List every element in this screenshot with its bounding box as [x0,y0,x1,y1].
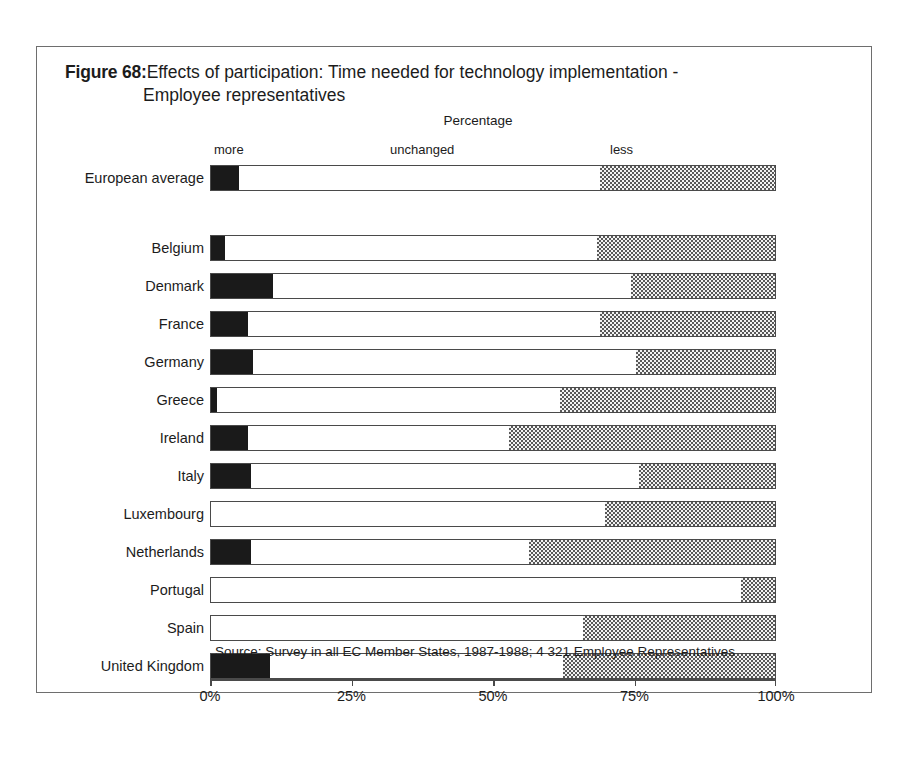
bar-segment-less [529,540,775,564]
bar-track [210,615,776,641]
bar-segment-less [583,616,775,640]
bar-segment-more [211,540,251,564]
bar-row-label: Ireland [160,425,204,451]
bar-track [210,577,776,603]
bar-segment-more [211,274,273,298]
bar-track [210,235,776,261]
bar-row: Luxembourg [210,501,776,527]
bar-row-label: European average [85,165,204,191]
x-axis-tick [352,679,354,686]
bar-segment-less [605,502,775,526]
x-axis-tick [635,679,637,686]
bar-row: Portugal [210,577,776,603]
bar-segment-unchanged [211,578,743,602]
x-axis-tick [493,679,495,686]
bar-segment-unchanged [211,502,607,526]
bar-row-label: Portugal [150,577,204,603]
bar-segment-unchanged [251,540,531,564]
bar-track [210,311,776,337]
bar-track [210,463,776,489]
bar-row: Netherlands [210,539,776,565]
x-axis-tick-label: 50% [478,688,507,704]
figure-label: Figure 68: [65,62,147,82]
bar-segment-less [600,312,775,336]
bar-row: Greece [210,387,776,413]
bar-row: Germany [210,349,776,375]
bar-segment-unchanged [248,312,602,336]
x-axis-tick [775,679,777,686]
x-axis: 0%25%50%75%100% [210,679,776,709]
bar-row-label: Germany [144,349,204,375]
bar-segment-unchanged [248,426,511,450]
bar-segment-less [631,274,775,298]
bar-row-label: Spain [167,615,204,641]
bar-segment-less [560,388,775,412]
bar-segment-more [211,312,248,336]
x-axis-tick [210,679,212,686]
figure-frame: Figure 68:Effects of participation: Time… [36,46,872,693]
bar-row: Spain [210,615,776,641]
bar-track [210,425,776,451]
bar-track [210,501,776,527]
x-axis-tick-label: 0% [200,688,221,704]
bar-row-label: Belgium [152,235,204,261]
legend-label-less: less [610,142,633,157]
bar-track [210,273,776,299]
bar-row-label: Luxembourg [123,501,204,527]
bar-segment-more [211,166,239,190]
bar-segment-less [741,578,775,602]
bar-row: France [210,311,776,337]
source-note: Source: Survey in all EC Member States, … [37,644,873,659]
bar-segment-more [211,236,225,260]
bar-row-label: Italy [177,463,204,489]
plot-area: more unchanged less European averageBelg… [210,47,776,694]
bar-track [210,349,776,375]
bar-track [210,539,776,565]
legend-label-more: more [214,142,244,157]
bar-row-label: Denmark [145,273,204,299]
bar-segment-unchanged [251,464,642,488]
x-axis-tick-label: 25% [337,688,366,704]
bar-segment-more [211,426,248,450]
bar-segment-unchanged [217,388,562,412]
bar-track [210,387,776,413]
bar-segment-unchanged [273,274,632,298]
bar-segment-unchanged [239,166,601,190]
bar-row: Denmark [210,273,776,299]
bar-segment-unchanged [253,350,638,374]
legend-label-unchanged: unchanged [390,142,454,157]
bar-segment-less [636,350,775,374]
x-axis-tick-label: 100% [757,688,794,704]
bar-row: Belgium [210,235,776,261]
bar-row-label: Greece [156,387,204,413]
bar-segment-less [509,426,775,450]
bar-segment-unchanged [225,236,599,260]
bar-row-label: Netherlands [126,539,204,565]
bar-row: Ireland [210,425,776,451]
bar-segment-more [211,350,253,374]
bar-segment-less [597,236,775,260]
bar-segment-less [639,464,775,488]
bar-row: European average [210,165,776,191]
bar-row-label: France [159,311,204,337]
bar-segment-less [600,166,775,190]
bar-segment-more [211,464,251,488]
bar-track [210,165,776,191]
x-axis-tick-label: 75% [620,688,649,704]
bar-row: Italy [210,463,776,489]
bar-segment-unchanged [211,616,585,640]
